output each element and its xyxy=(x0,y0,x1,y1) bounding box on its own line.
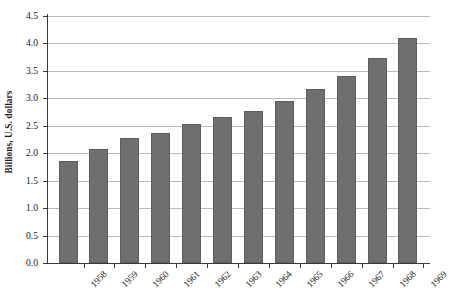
y-axis-tick xyxy=(43,71,48,72)
y-axis-tick-label: 3.0 xyxy=(0,93,38,103)
x-axis-tick xyxy=(145,263,146,268)
bar-1960 xyxy=(120,138,139,263)
y-axis-tick-label: 1.0 xyxy=(0,203,38,213)
x-axis-tick xyxy=(362,263,363,268)
x-axis-tick-label: 1966 xyxy=(336,269,356,289)
x-axis-tick xyxy=(84,263,85,268)
y-axis-tick xyxy=(43,236,48,237)
x-axis-tick xyxy=(207,263,208,268)
bar-1964 xyxy=(244,111,263,263)
x-axis-tick-label: 1969 xyxy=(428,269,448,289)
bar-1963 xyxy=(213,117,232,263)
x-axis-tick-label: 1968 xyxy=(397,269,417,289)
y-axis-tick xyxy=(43,153,48,154)
bar-1958 xyxy=(59,161,78,263)
x-axis-tick-label: 1962 xyxy=(212,269,232,289)
y-axis-line xyxy=(47,14,48,264)
bar-1969 xyxy=(398,38,417,264)
x-axis-tick-label: 1960 xyxy=(150,269,170,289)
y-axis-tick xyxy=(43,98,48,99)
x-axis-tick xyxy=(393,263,394,268)
x-axis-tick xyxy=(238,263,239,268)
bar-1967 xyxy=(337,76,356,263)
x-axis-tick xyxy=(423,263,424,268)
x-axis-tick xyxy=(331,263,332,268)
bar-1959 xyxy=(89,149,108,263)
y-axis-tick xyxy=(43,126,48,127)
y-axis-tick-label: 1.5 xyxy=(0,176,38,186)
x-axis-tick-label: 1964 xyxy=(274,269,294,289)
x-axis-tick xyxy=(114,263,115,268)
gridline xyxy=(47,43,430,44)
x-axis-tick-label: 1965 xyxy=(305,269,325,289)
y-axis-tick-label: 3.5 xyxy=(0,66,38,76)
y-axis-tick-label: 4.5 xyxy=(0,11,38,21)
gridline xyxy=(47,16,430,17)
x-axis-tick-label: 1958 xyxy=(88,269,108,289)
y-axis-tick-label: 0.0 xyxy=(0,258,38,268)
x-axis-tick-label: 1961 xyxy=(181,269,201,289)
y-axis-tick-label: 2.0 xyxy=(0,148,38,158)
y-axis-tick-label: 2.5 xyxy=(0,121,38,131)
y-axis-tick xyxy=(43,16,48,17)
x-axis-tick xyxy=(300,263,301,268)
bar-1962 xyxy=(182,124,201,263)
bar-1968 xyxy=(368,58,387,263)
y-axis-tick-label: 4.0 xyxy=(0,38,38,48)
y-axis-tick xyxy=(43,263,48,264)
y-axis-tick xyxy=(43,181,48,182)
x-axis-tick-label: 1967 xyxy=(367,269,387,289)
x-axis-tick-label: 1959 xyxy=(119,269,139,289)
y-axis-tick xyxy=(43,208,48,209)
y-axis-tick xyxy=(43,43,48,44)
x-axis-tick xyxy=(176,263,177,268)
bar-1966 xyxy=(306,89,325,263)
x-axis-tick-label: 1963 xyxy=(243,269,263,289)
bar-1961 xyxy=(151,133,170,263)
bar-1965 xyxy=(275,101,294,263)
x-axis-tick xyxy=(269,263,270,268)
y-axis-tick-label: 0.5 xyxy=(0,231,38,241)
